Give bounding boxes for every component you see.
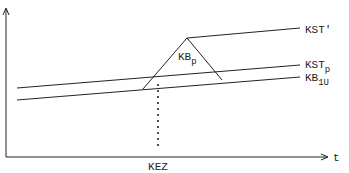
x-axis — [6, 154, 328, 160]
kb-p-triangle — [143, 38, 222, 89]
kst-prime-label: KST′ — [305, 24, 331, 36]
diagram-canvas: t KST′ KSTp KB1U KBp KEZ — [0, 0, 349, 173]
x-axis-label: t — [333, 152, 340, 164]
kb-p-label: KBp — [178, 51, 197, 67]
kst-prime-line — [187, 28, 300, 38]
y-axis — [3, 8, 9, 157]
kez-label: KEZ — [148, 161, 168, 173]
